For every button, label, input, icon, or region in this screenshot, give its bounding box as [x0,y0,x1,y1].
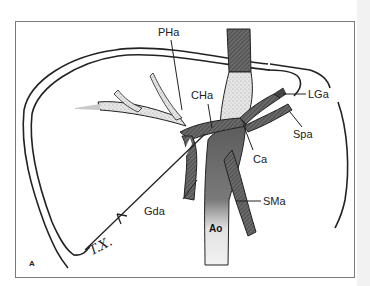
label-ao: Ao [209,224,222,234]
panel-letter: A [29,259,35,268]
label-cha: CHa [191,90,213,101]
label-pha: PHa [158,27,179,38]
label-ca: Ca [253,154,267,165]
right-contour [335,102,348,228]
label-gda: Gda [144,206,165,217]
label-lga: LGa [308,89,329,100]
pha-branch-faded [75,104,100,110]
label-sma: SMa [263,196,286,207]
catheter-arrow-icon [117,214,127,224]
aorta-upper [227,29,251,72]
hepatic-artery-illustration [0,0,370,286]
label-spa: Spa [293,129,313,140]
liver-outline [23,48,330,268]
